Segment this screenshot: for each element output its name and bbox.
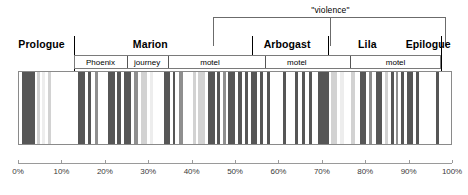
barcode-bar <box>401 72 404 144</box>
barcode-bar <box>173 72 176 144</box>
axis-tick <box>105 160 106 163</box>
barcode-timeline-figure: "violence"PrologueMarionArbogastLilaEpil… <box>0 0 468 195</box>
scene-band-divider-3 <box>265 56 266 68</box>
barcode-bar <box>124 72 131 144</box>
barcode-bar <box>309 72 312 144</box>
barcode-bar <box>48 72 51 144</box>
axis-label: 40% <box>174 167 210 176</box>
axis-tick <box>18 160 19 163</box>
scene-band-label-phoenix-0: Phoenix <box>74 58 126 67</box>
axis-tick <box>148 160 149 163</box>
barcode-bar <box>331 72 336 144</box>
barcode-bar <box>396 72 398 144</box>
act-tick-epilogue <box>441 36 442 74</box>
barcode-bar <box>208 72 215 144</box>
scene-band-label-motel-4: motel <box>350 58 441 67</box>
axis-label: 30% <box>130 167 166 176</box>
barcode-bar <box>318 72 329 144</box>
axis-label: 50% <box>217 167 253 176</box>
barcode-bar <box>251 72 257 144</box>
barcode-bar <box>134 72 137 144</box>
barcode-bar <box>436 72 439 144</box>
barcode-strip <box>18 71 452 145</box>
barcode-bar <box>260 72 263 144</box>
barcode-bar <box>267 72 270 144</box>
barcode-bar <box>198 72 205 144</box>
barcode-bar <box>376 72 383 144</box>
axis-label: 0% <box>0 167 36 176</box>
barcode-bar <box>179 72 183 144</box>
barcode-bar <box>245 72 248 144</box>
barcode-bar <box>37 72 40 144</box>
barcode-bar <box>340 72 343 144</box>
barcode-bar <box>117 72 120 144</box>
barcode-bar <box>283 72 286 144</box>
act-label-epilogue: Epilogue <box>406 38 450 50</box>
scene-band-divider-2 <box>168 56 169 68</box>
barcode-bar <box>302 72 305 144</box>
axis-tick <box>235 160 236 163</box>
axis-label: 70% <box>304 167 340 176</box>
axis-tick <box>61 160 62 163</box>
barcode-bar <box>164 72 170 144</box>
act-label-lila: Lila <box>327 38 407 50</box>
axis-label: 80% <box>347 167 383 176</box>
bracket-label-violence: "violence" <box>300 5 360 15</box>
barcode-bar <box>295 72 298 144</box>
axis-tick <box>409 160 410 163</box>
axis-tick <box>192 160 193 163</box>
axis-label: 20% <box>87 167 123 176</box>
barcode-bar <box>407 72 414 144</box>
axis-label: 100% <box>434 167 468 176</box>
barcode-bar <box>228 72 235 144</box>
act-tick-lila <box>328 36 329 56</box>
barcode-bar <box>88 72 91 144</box>
axis-label: 90% <box>391 167 427 176</box>
barcode-bar <box>238 72 242 144</box>
axis-label: 10% <box>43 167 79 176</box>
act-label-arbogast: Arbogast <box>247 38 327 50</box>
barcode-bar <box>416 72 419 144</box>
axis-line <box>18 163 452 164</box>
axis-tick <box>452 160 453 163</box>
barcode-bar <box>42 72 45 144</box>
scene-band-label-journey-1: journey <box>127 58 168 67</box>
barcode-bar <box>391 72 394 144</box>
bracket-left-arm <box>213 17 214 46</box>
scene-band-label-motel-2: motel <box>168 58 253 67</box>
barcode-bar <box>22 72 35 144</box>
barcode-bar <box>78 72 85 144</box>
barcode-bar <box>360 72 366 144</box>
barcode-bar <box>108 72 115 144</box>
axis-tick <box>322 160 323 163</box>
barcode-bar <box>385 72 388 144</box>
scene-band-divider-1 <box>127 56 128 68</box>
scene-band-label-motel-3: motel <box>265 58 328 67</box>
act-tick-arbogast <box>252 36 253 56</box>
barcode-bar <box>217 72 220 144</box>
axis-tick <box>365 160 366 163</box>
axis-tick <box>278 160 279 163</box>
axis-label: 60% <box>260 167 296 176</box>
barcode-bar <box>369 72 372 144</box>
barcode-bar <box>223 72 226 144</box>
act-label-marion: Marion <box>110 38 190 50</box>
barcode-bar <box>95 72 98 144</box>
act-label-prologue: Prologue <box>18 38 64 50</box>
barcode-bar <box>193 72 196 144</box>
scene-band-divider-4 <box>350 56 351 68</box>
barcode-bar <box>150 72 153 144</box>
barcode-bar <box>141 72 148 144</box>
bracket-top-rail <box>213 17 445 18</box>
barcode-bar <box>351 72 355 144</box>
